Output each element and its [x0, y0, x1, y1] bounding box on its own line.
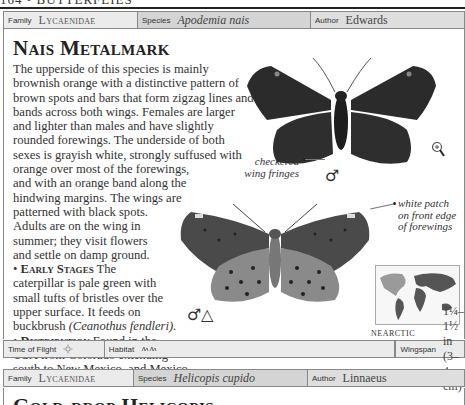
wingspan-cell: Wingspan 1¼–1½ in (3–4 cm) [395, 341, 464, 357]
magnify-icon[interactable] [431, 141, 445, 159]
butterfly-upperside-image [243, 58, 443, 170]
description-line: rounded forewings. The underside of both [13, 133, 254, 147]
male-symbol: ♂ [187, 305, 201, 324]
description-line: brownish orange with a distinctive patte… [13, 76, 254, 90]
annotation-line: checkered [231, 156, 299, 168]
author-value: Edwards [346, 13, 388, 28]
description-line: brown spots and bars that form zigzag li… [13, 91, 254, 105]
leader-line [305, 159, 325, 160]
description-line: sexes is grayish white, strongly suffuse… [13, 148, 254, 162]
early-stages-text: buckbrush [13, 319, 65, 333]
author-value: Linnaeus [343, 371, 387, 386]
early-stages-text: The [97, 262, 117, 276]
family-value: Lycaenidae [39, 371, 96, 386]
author-label: Author [315, 16, 339, 25]
species-cell: Species Helicopis cupido [134, 370, 308, 386]
header-rule [0, 7, 465, 9]
plant-name: (Ceanothus fendleri). [69, 319, 177, 333]
description-line: and with an orange band along the [13, 176, 254, 190]
butterfly-underside-image [175, 190, 375, 308]
habitat-cell: Habitat [105, 341, 396, 357]
wingspan-label: Wingspan [400, 345, 436, 354]
family-value: Lycaenidae [39, 13, 96, 28]
species-cell: Species Apodemia nais [138, 12, 311, 28]
time-of-flight-label: Time of Flight [8, 345, 56, 354]
species-label: Species [138, 374, 166, 383]
next-entry-title: Gold-drop Helicopis [13, 394, 214, 405]
species-value: Apodemia nais [177, 13, 249, 28]
description-line: The upperside of this species is mainly [13, 62, 254, 76]
male-symbol: ♂ [325, 166, 339, 185]
family-cell: Family Lycaenidae [4, 12, 138, 28]
early-stages-line: buckbrush (Ceanothus fendleri). [13, 319, 254, 333]
annotation-checkered-fringes: checkered wing fringes [231, 156, 299, 179]
species-info-bar: Family Lycaenidae Species Apodemia nais … [3, 11, 465, 29]
annotation-white-patch: white patch on front edge of forewings [398, 198, 456, 233]
description-line: and lighter than males and have slightly [13, 119, 254, 133]
author-cell: Author Linnaeus [308, 370, 464, 386]
running-head: 164 • BUTTERFLIES [0, 0, 465, 6]
species-value: Helicopis cupido [173, 371, 255, 386]
author-cell: Author Edwards [311, 12, 464, 28]
next-species-info-bar: Family Lycaenidae Species Helicopis cupi… [3, 369, 465, 387]
annotation-line: wing fringes [231, 168, 299, 180]
triangle-symbol: △ [201, 305, 213, 324]
description-line: bands across both wings. Females are lar… [13, 105, 254, 119]
early-stages-heading: Early Stages [21, 262, 94, 276]
family-label: Family [8, 16, 32, 25]
time-of-flight-cell: Time of Flight [4, 341, 105, 357]
family-cell: Family Lycaenidae [4, 370, 134, 386]
author-label: Author [312, 374, 336, 383]
sun-icon [63, 344, 73, 354]
region-label: NEARCTIC [371, 329, 415, 338]
family-label: Family [8, 374, 32, 383]
flight-habitat-bar: Time of Flight Habitat Wingspan 1¼–1½ in… [3, 340, 465, 358]
annotation-line: white patch [398, 198, 456, 210]
entry-title: Nais Metalmark [13, 36, 170, 61]
grassland-icon [141, 346, 157, 352]
description-line: orange over most of the forewings, [13, 162, 254, 176]
habitat-label: Habitat [109, 345, 134, 354]
annotation-line: of forewings [398, 221, 456, 233]
species-label: Species [142, 16, 170, 25]
